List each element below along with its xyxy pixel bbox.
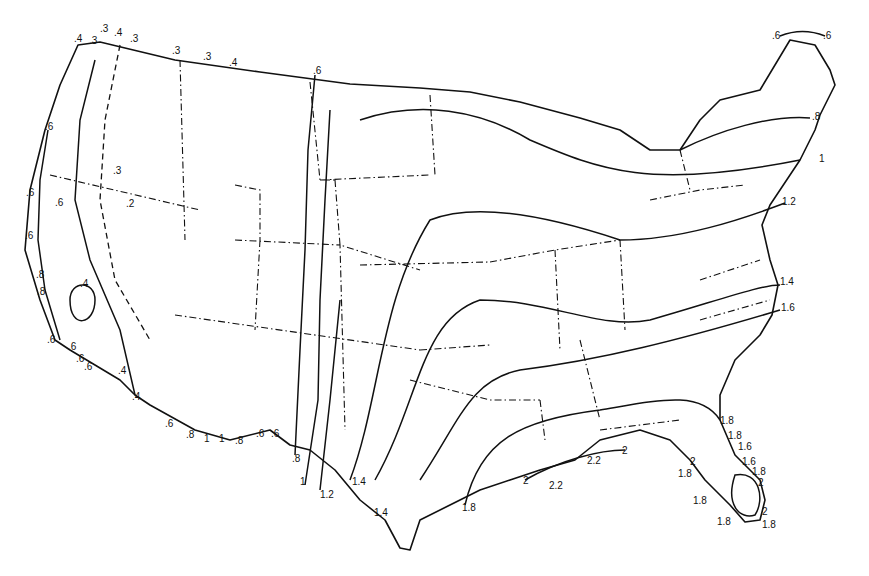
isoline-value-label: 1.8: [462, 503, 476, 513]
us-isoline-map: [0, 0, 869, 576]
isoline-value-label: .6: [165, 419, 173, 429]
isoline-value-label: .6: [68, 342, 76, 352]
isoline-value-label: 2: [622, 446, 628, 456]
isoline-value-label: .8: [292, 454, 300, 464]
isoline-value-label: .8: [812, 112, 820, 122]
isoline-0.8-northeast: [680, 118, 810, 150]
isoline-value-label: .3: [130, 34, 138, 44]
isoline-value-label: .3: [172, 46, 180, 56]
isoline-value-label: 1.8: [693, 496, 707, 506]
isoline-value-label: 2: [758, 478, 764, 488]
isoline-value-label: .4: [132, 392, 140, 402]
isoline-0.6-maine: [780, 32, 825, 37]
isoline-2.0-florida: [732, 474, 760, 516]
isoline-value-label: 1: [819, 154, 825, 164]
isoline-value-label: 1.6: [738, 442, 752, 452]
isoline-value-label: 1.4: [780, 277, 794, 287]
isoline-value-label: 1.8: [752, 467, 766, 477]
isoline-value-label: .3: [89, 36, 97, 46]
isoline-value-label: .3: [100, 24, 108, 34]
isoline-value-label: .6: [25, 231, 33, 241]
isoline-0.4-island: [70, 285, 95, 321]
isoline-value-label: 1.8: [678, 469, 692, 479]
isoline-value-label: 1.2: [320, 490, 334, 500]
isoline-0.6-west: [38, 130, 60, 340]
isoline-value-label: .6: [823, 31, 831, 41]
isoline-value-label: .4: [118, 366, 126, 376]
isoline-2.0: [525, 450, 625, 480]
isoline-value-label: 1.4: [374, 508, 388, 518]
isoline-value-label: 1.8: [728, 431, 742, 441]
isoline-value-label: 1: [204, 434, 210, 444]
isoline-value-label: 2.2: [549, 481, 563, 491]
isoline-value-label: .4: [74, 34, 82, 44]
isoline-value-label: 1.8: [717, 517, 731, 527]
isoline-value-label: .6: [47, 335, 55, 345]
isoline-value-label: 2: [690, 457, 696, 467]
isoline-value-label: 1: [219, 434, 225, 444]
isoline-value-label: .6: [313, 66, 321, 76]
isoline-0.6-center: [295, 75, 315, 455]
isoline-value-label: 2: [523, 476, 529, 486]
isoline-value-label: 1.8: [762, 520, 776, 530]
isoline-value-label: 1: [300, 477, 306, 487]
isoline-value-label: .6: [26, 188, 34, 198]
isoline-value-label: .8: [37, 287, 45, 297]
us-outline: [25, 40, 835, 550]
isoline-value-label: .8: [36, 270, 44, 280]
isoline-value-label: .4: [114, 28, 122, 38]
isoline-value-label: .8: [186, 430, 194, 440]
isoline-value-label: .3: [203, 52, 211, 62]
isoline-value-label: 1.2: [782, 197, 796, 207]
isoline-value-label: .8: [235, 436, 243, 446]
isoline-value-label: .6: [772, 31, 780, 41]
isoline-value-label: 1.4: [352, 477, 366, 487]
isoline-value-label: .3: [113, 166, 121, 176]
isoline-value-label: 2.2: [587, 456, 601, 466]
isoline-value-label: .6: [45, 122, 53, 132]
isoline-value-label: .6: [256, 429, 264, 439]
isoline-value-label: .6: [84, 362, 92, 372]
isoline-1.2: [350, 203, 785, 480]
isoline-value-label: .4: [229, 58, 237, 68]
isoline-value-label: .6: [271, 429, 279, 439]
isoline-value-label: .4: [80, 279, 88, 289]
isoline-value-label: 1.6: [781, 303, 795, 313]
isoline-value-label: .6: [55, 198, 63, 208]
isoline-value-label: 2: [762, 507, 768, 517]
state-boundaries: [50, 60, 770, 440]
isoline-value-label: .2: [126, 199, 134, 209]
isoline-value-label: 1.8: [720, 416, 734, 426]
